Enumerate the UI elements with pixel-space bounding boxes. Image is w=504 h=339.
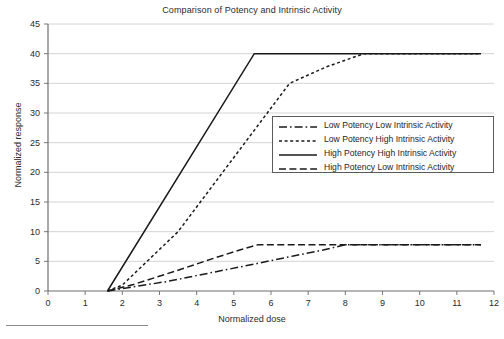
dashed-fine-sample [278, 133, 318, 145]
legend-label: High Potency Low Intrinsic Activity [324, 162, 454, 172]
legend-label: High Potency High Intrinsic Activity [324, 148, 456, 158]
legend-item[interactable]: Low Potency Low Intrinsic Activity [278, 119, 493, 132]
legend-label: Low Potency Low Intrinsic Activity [324, 120, 452, 130]
legend-item[interactable]: Low Potency High Intrinsic Activity [278, 133, 493, 146]
dashed-long-sample [278, 161, 318, 173]
legend-item[interactable]: High Potency Low Intrinsic Activity [278, 161, 493, 174]
solid-sample [278, 147, 318, 159]
footnote-rule [6, 325, 148, 326]
chart-legend: Low Potency Low Intrinsic ActivityLow Po… [272, 116, 494, 173]
series-line-3 [107, 245, 481, 291]
series-line-0 [107, 245, 481, 291]
dash-dot-sample [278, 119, 318, 131]
legend-item[interactable]: High Potency High Intrinsic Activity [278, 147, 493, 160]
legend-label: Low Potency High Intrinsic Activity [324, 134, 454, 144]
chart-figure: Comparison of Potency and Intrinsic Acti… [0, 0, 504, 339]
